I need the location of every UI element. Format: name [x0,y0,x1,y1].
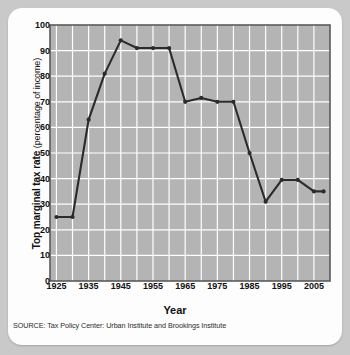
y-axis-tick-70: 70 [24,97,50,107]
y-axis-tick-20: 20 [24,225,50,235]
x-axis-title: Year [8,304,342,316]
y-axis-tick-30: 30 [24,199,50,209]
y-axis-tick-40: 40 [24,174,50,184]
y-axis-tick-10: 10 [24,250,50,260]
y-axis-tick-80: 80 [24,71,50,81]
chart-container: Top marginal tax rate (percentage of inc… [8,8,342,345]
source-note: SOURCE: Tax Policy Center: Urban Institu… [13,321,226,330]
y-axis-tick-100: 100 [24,20,50,30]
y-axis-tick-90: 90 [24,46,50,56]
y-axis-tick-60: 60 [24,122,50,132]
x-axis-tick-2005: 2005 [294,281,334,291]
figure-card: Top marginal tax rate (percentage of inc… [8,8,342,345]
x-axis-tick-labels: 192519351945195519651975198519952005 [8,281,342,297]
y-axis-tick-50: 50 [24,148,50,158]
